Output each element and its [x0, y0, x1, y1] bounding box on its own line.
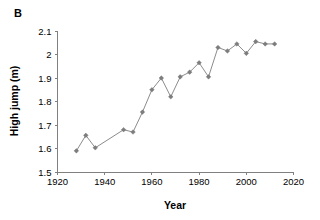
y-tick-label: 1.9	[38, 73, 51, 84]
x-tick-label: 1980	[189, 176, 210, 187]
y-axis: 1.51.61.71.81.922.1	[38, 26, 57, 178]
series-line-high-jump	[76, 42, 274, 151]
data-point-marker	[74, 149, 79, 154]
figure-panel-b: B 1.51.61.71.81.922.1 192019401960198020…	[0, 0, 320, 220]
x-tick-label: 2000	[236, 176, 257, 187]
data-point-marker	[140, 110, 145, 115]
data-point-marker	[272, 42, 277, 47]
x-tick-labels: 192019401960198020002020	[47, 176, 304, 187]
x-tick-label: 2020	[283, 176, 304, 187]
x-axis-title: Year	[164, 199, 186, 211]
series-markers	[74, 39, 277, 153]
x-tick-label: 1960	[141, 176, 162, 187]
high-jump-line-chart: 1.51.61.71.81.922.1 19201940196019802000…	[0, 0, 320, 220]
data-point-marker	[131, 130, 136, 135]
data-point-marker	[263, 42, 268, 47]
y-axis-title: High jump (m)	[8, 66, 20, 137]
x-axis: 192019401960198020002020	[47, 172, 304, 187]
x-tick-label: 1940	[94, 176, 115, 187]
data-point-marker	[168, 95, 173, 100]
y-tick-label: 2	[46, 49, 51, 60]
data-point-marker	[216, 45, 221, 50]
data-point-marker	[178, 75, 183, 80]
data-series	[74, 39, 277, 153]
y-tick-label: 1.7	[38, 120, 51, 131]
y-tick-label: 2.1	[38, 26, 51, 37]
y-tick-labels: 1.51.61.71.81.922.1	[38, 26, 51, 178]
x-tick-label: 1920	[47, 176, 68, 187]
y-tick-label: 1.6	[38, 143, 51, 154]
y-tick-label: 1.8	[38, 96, 51, 107]
